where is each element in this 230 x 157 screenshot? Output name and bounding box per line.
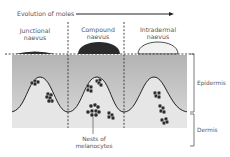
- epidermis-label: Epidermis: [197, 80, 226, 87]
- intradermal-naevus: [138, 42, 178, 54]
- evolution-arrow: [76, 12, 174, 16]
- skin-cross-section: [10, 55, 189, 128]
- layer-brackets: [190, 54, 194, 146]
- nests-label: Nests ofmelanocytes: [73, 136, 115, 150]
- stage-compound-label: Compoundnaevus: [76, 26, 120, 40]
- stage-intradermal-label: Intradermalnaevus: [136, 26, 180, 40]
- compound-naevus: [78, 42, 120, 54]
- stage-junctional-label: Junctionalnaevus: [16, 27, 54, 41]
- title-label: Evolution of moles: [17, 10, 74, 17]
- mole-evolution-diagram: [0, 0, 230, 157]
- dermis-label: Dermis: [197, 127, 218, 134]
